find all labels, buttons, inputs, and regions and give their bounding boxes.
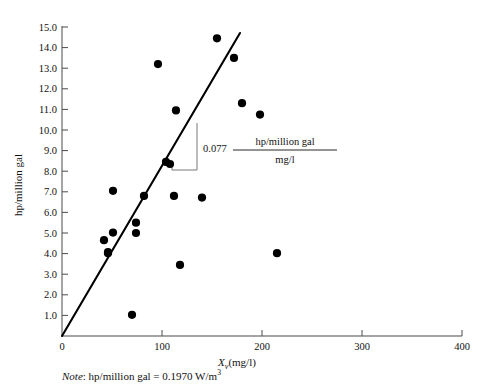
y-tick-label: 12.0 [39,83,57,94]
data-point [104,249,112,257]
data-points-group [100,34,281,319]
y-tick-label: 6.0 [44,207,57,218]
y-tick-label: 8.0 [44,166,57,177]
data-point [176,261,184,269]
scatter-plot-figure: 15.0 14.0 13.0 12.0 11.0 10.0 9.0 8.0 7.… [0,0,491,390]
y-tick-label: 3.0 [44,269,57,280]
data-point [172,106,180,114]
x-axis-title: Xv(mg/l) [217,356,256,371]
svg-text:Xv(mg/l): Xv(mg/l) [217,356,256,371]
y-axis-title: hp/million gal [12,154,24,216]
y-tick-label: 11.0 [39,104,57,115]
data-point [109,229,117,237]
y-ticks-group: 15.0 14.0 13.0 12.0 11.0 10.0 9.0 8.0 7.… [39,22,68,321]
chart-canvas: 15.0 14.0 13.0 12.0 11.0 10.0 9.0 8.0 7.… [0,0,491,390]
data-point [140,192,148,200]
x-axis-title-unit: (mg/l) [228,356,256,369]
data-point [154,60,162,68]
y-tick-label: 7.0 [44,186,57,197]
data-point [230,54,238,62]
note-body: hp/million gal = 0.1970 W/m [89,370,218,382]
slope-unit-numerator: hp/million gal [255,136,314,147]
data-point [132,219,140,227]
note-separator: : [83,370,86,382]
y-tick-label: 2.0 [44,289,57,300]
slope-triangle-guide [172,123,197,170]
data-point [256,111,264,119]
data-point [166,160,174,168]
x-tick-label: 200 [254,341,270,352]
data-point [128,311,136,319]
x-tick-label: 400 [454,341,470,352]
slope-annotation: 0.077 hp/million gal mg/l [203,136,337,165]
note-exponent: 3 [217,368,221,377]
y-tick-label: 13.0 [39,63,57,74]
data-point [170,192,178,200]
y-tick-label: 15.0 [39,22,57,33]
x-tick-label: 100 [154,341,170,352]
y-tick-label: 14.0 [39,42,57,53]
slope-value: 0.077 [203,143,227,154]
y-tick-label: 5.0 [44,228,57,239]
note-keyword: Note [62,370,83,382]
y-tick-label: 4.0 [44,248,57,259]
y-tick-label: 1.0 [44,310,57,321]
data-point [213,34,221,42]
x-tick-label: 300 [354,341,370,352]
data-point [100,236,108,244]
y-tick-label: 10.0 [39,125,57,136]
y-tick-label: 9.0 [44,145,57,156]
data-point [273,249,281,257]
slope-unit-denominator: mg/l [275,154,294,165]
figure-note: Note: hp/million gal = 0.1970 W/m3 [62,368,221,382]
data-point [109,187,117,195]
axes-group [62,26,462,336]
x-ticks-group: 0 100 200 300 400 [59,330,470,352]
trend-line [62,33,240,336]
data-point [132,229,140,237]
data-point [238,99,246,107]
data-point [198,194,206,202]
x-tick-label: 0 [59,341,64,352]
